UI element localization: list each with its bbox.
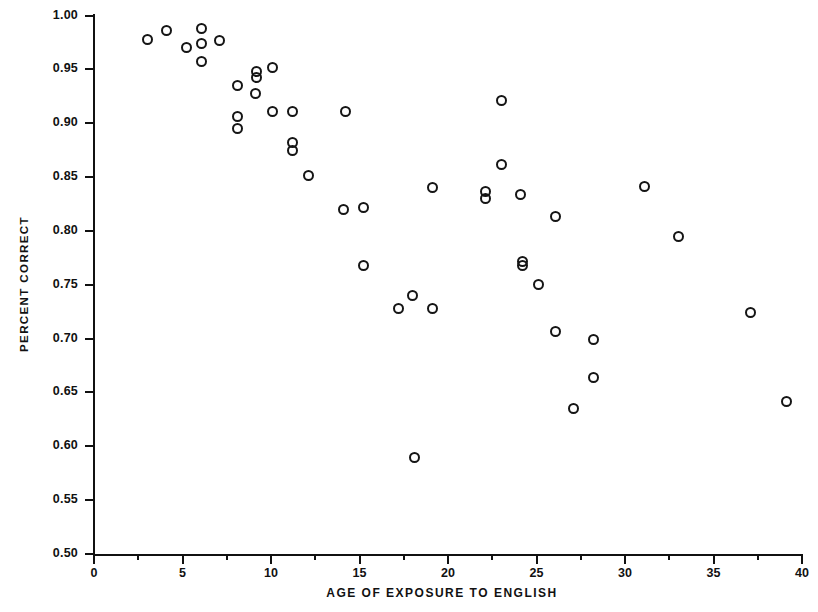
y-tick-mark	[85, 499, 94, 501]
y-tick-mark	[85, 445, 94, 447]
data-point	[496, 159, 507, 170]
y-tick-label: 0.55	[22, 492, 78, 506]
data-point	[781, 396, 792, 407]
y-tick-label: 0.80	[22, 223, 78, 237]
data-point	[533, 279, 544, 290]
y-tick-label: 0.70	[22, 331, 78, 345]
y-tick-mark	[85, 284, 94, 286]
data-point	[407, 290, 418, 301]
x-tick-label: 10	[247, 566, 295, 580]
x-tick-label: 15	[336, 566, 384, 580]
data-point	[496, 95, 507, 106]
x-tick-label: 20	[424, 566, 472, 580]
data-point	[250, 88, 261, 99]
x-tick-label: 40	[778, 566, 818, 580]
x-tick-mark	[491, 555, 493, 560]
y-tick-label: 0.60	[22, 438, 78, 452]
x-tick-mark	[580, 555, 582, 560]
x-tick-label: 30	[601, 566, 649, 580]
data-point	[232, 80, 243, 91]
y-tick-mark	[85, 338, 94, 340]
data-point	[745, 307, 756, 318]
data-point	[214, 35, 225, 46]
x-tick-mark	[314, 555, 316, 560]
data-point	[303, 170, 314, 181]
data-point	[427, 182, 438, 193]
data-point	[338, 204, 349, 215]
x-tick-mark	[757, 555, 759, 560]
data-point	[161, 25, 172, 36]
y-tick-label: 1.00	[22, 8, 78, 22]
x-tick-label: 25	[513, 566, 561, 580]
x-tick-mark	[668, 555, 670, 560]
y-tick-mark	[85, 122, 94, 124]
x-tick-mark	[403, 555, 405, 560]
data-point	[287, 145, 298, 156]
x-tick-mark	[536, 555, 538, 564]
x-tick-mark	[359, 555, 361, 564]
data-point	[196, 56, 207, 67]
data-point	[550, 326, 561, 337]
data-point	[588, 372, 599, 383]
data-point	[196, 38, 207, 49]
y-tick-mark	[85, 15, 94, 17]
data-point	[232, 123, 243, 134]
data-point	[480, 193, 491, 204]
y-tick-label: 0.95	[22, 61, 78, 75]
data-point	[181, 42, 192, 53]
data-point	[267, 62, 278, 73]
x-tick-mark	[182, 555, 184, 564]
x-axis-label: AGE OF EXPOSURE TO ENGLISH	[0, 586, 818, 600]
data-point	[358, 260, 369, 271]
x-tick-label: 0	[70, 566, 118, 580]
x-tick-mark	[713, 555, 715, 564]
scatter-plot-figure: PERCENT CORRECT 1.000.950.900.850.800.75…	[0, 0, 818, 612]
data-point	[196, 23, 207, 34]
y-tick-label: 0.65	[22, 384, 78, 398]
y-tick-mark	[85, 176, 94, 178]
y-tick-mark	[85, 68, 94, 70]
data-point	[358, 202, 369, 213]
x-tick-mark	[624, 555, 626, 564]
data-point	[588, 334, 599, 345]
y-tick-label: 0.75	[22, 277, 78, 291]
x-tick-label: 35	[690, 566, 738, 580]
data-point	[673, 231, 684, 242]
y-tick-label: 0.85	[22, 169, 78, 183]
data-point	[232, 111, 243, 122]
data-point	[340, 106, 351, 117]
data-point	[517, 260, 528, 271]
y-tick-mark	[85, 391, 94, 393]
y-tick-label: 0.90	[22, 115, 78, 129]
x-tick-mark	[447, 555, 449, 564]
data-point	[409, 452, 420, 463]
x-tick-mark	[226, 555, 228, 560]
data-point	[427, 303, 438, 314]
y-tick-mark	[85, 230, 94, 232]
x-tick-label: 5	[159, 566, 207, 580]
x-tick-mark	[93, 555, 95, 564]
data-point	[251, 72, 262, 83]
data-point	[550, 211, 561, 222]
x-tick-mark	[801, 555, 803, 564]
data-point	[639, 181, 650, 192]
data-point	[515, 189, 526, 200]
y-tick-label: 0.50	[22, 546, 78, 560]
data-point	[568, 403, 579, 414]
x-tick-mark	[270, 555, 272, 564]
data-point	[393, 303, 404, 314]
x-tick-mark	[137, 555, 139, 560]
data-point	[287, 106, 298, 117]
data-point	[142, 34, 153, 45]
data-point	[267, 106, 278, 117]
